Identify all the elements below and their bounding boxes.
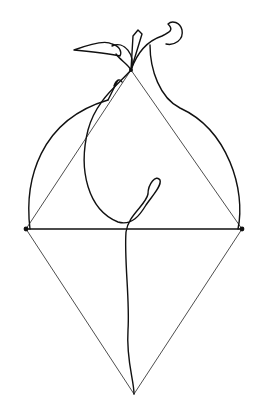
apex-flicker [108,80,122,100]
pear-inner-curve [84,70,160,394]
line-drawing-artwork [0,0,258,406]
leaf-left-stem [112,45,132,70]
leaf-left [74,42,121,56]
pear-right-outline [150,45,240,229]
diamond-shape [24,68,245,394]
